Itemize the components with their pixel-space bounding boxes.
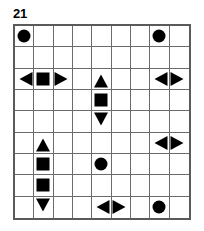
grid-cell-r4c8[interactable]	[150, 90, 169, 111]
grid-cell-r9c9[interactable]	[170, 197, 189, 218]
grid-cell-r8c5[interactable]	[92, 175, 111, 196]
grid-cell-r2c7[interactable]	[131, 47, 150, 68]
grid-cell-r8c1[interactable]	[15, 175, 34, 196]
shape-triangle-left-r6c8	[155, 136, 168, 150]
grid-cell-r3c2[interactable]	[34, 69, 53, 90]
grid-cell-r6c5[interactable]	[92, 133, 111, 154]
grid-cell-r4c5[interactable]	[92, 90, 111, 111]
grid-cell-r9c6[interactable]	[112, 197, 131, 218]
grid-cell-r6c7[interactable]	[131, 133, 150, 154]
grid-cell-r8c8[interactable]	[150, 175, 169, 196]
grid-cell-r6c8[interactable]	[150, 133, 169, 154]
shape-square-r3c2	[37, 72, 50, 85]
grid-cell-r2c3[interactable]	[54, 47, 73, 68]
grid-cell-r7c7[interactable]	[131, 154, 150, 175]
grid-cell-r9c1[interactable]	[15, 197, 34, 218]
grid-cell-r7c3[interactable]	[54, 154, 73, 175]
grid-cell-r2c8[interactable]	[150, 47, 169, 68]
grid-cell-r5c6[interactable]	[112, 111, 131, 132]
grid-cell-r2c6[interactable]	[112, 47, 131, 68]
grid-cell-r1c7[interactable]	[131, 26, 150, 47]
grid-cell-r3c6[interactable]	[112, 69, 131, 90]
grid-cell-r3c4[interactable]	[73, 69, 92, 90]
grid-cell-r1c6[interactable]	[112, 26, 131, 47]
grid-cell-r1c1[interactable]	[15, 26, 34, 47]
grid-cell-r7c4[interactable]	[73, 154, 92, 175]
grid-cell-r9c2[interactable]	[34, 197, 53, 218]
shape-circle-r7c5	[95, 158, 108, 171]
grid-cell-r7c5[interactable]	[92, 154, 111, 175]
grid-cell-r1c2[interactable]	[34, 26, 53, 47]
grid-cell-r6c6[interactable]	[112, 133, 131, 154]
shape-triangle-right-r9c6	[112, 200, 125, 214]
grid-cell-r6c2[interactable]	[34, 133, 53, 154]
grid-cell-r6c3[interactable]	[54, 133, 73, 154]
grid-cell-r4c2[interactable]	[34, 90, 53, 111]
grid-cell-r6c9[interactable]	[170, 133, 189, 154]
grid-cell-r1c5[interactable]	[92, 26, 111, 47]
grid-cell-r9c3[interactable]	[54, 197, 73, 218]
grid-cell-r9c8[interactable]	[150, 197, 169, 218]
grid-cell-r3c8[interactable]	[150, 69, 169, 90]
grid-cell-r6c1[interactable]	[15, 133, 34, 154]
shape-triangle-down-r9c2	[36, 199, 50, 212]
grid-cell-r5c7[interactable]	[131, 111, 150, 132]
grid-cell-r8c4[interactable]	[73, 175, 92, 196]
grid-cell-r4c1[interactable]	[15, 90, 34, 111]
shape-circle-r9c8	[153, 201, 166, 214]
shape-square-r7c2	[37, 158, 50, 171]
grid-cell-r7c8[interactable]	[150, 154, 169, 175]
grid-cell-r4c4[interactable]	[73, 90, 92, 111]
grid-cell-r2c1[interactable]	[15, 47, 34, 68]
shape-triangle-up-r3c5	[94, 74, 108, 87]
shape-circle-r1c1	[18, 30, 31, 43]
grid-cell-r4c7[interactable]	[131, 90, 150, 111]
grid-cell-r3c7[interactable]	[131, 69, 150, 90]
grid-cell-r5c8[interactable]	[150, 111, 169, 132]
grid-cell-r5c5[interactable]	[92, 111, 111, 132]
grid-cell-r2c4[interactable]	[73, 47, 92, 68]
grid-cell-r2c2[interactable]	[34, 47, 53, 68]
grid-cell-r3c5[interactable]	[92, 69, 111, 90]
grid-cell-r5c1[interactable]	[15, 111, 34, 132]
puzzle-grid	[15, 26, 189, 218]
grid-cell-r4c6[interactable]	[112, 90, 131, 111]
grid-cell-r5c9[interactable]	[170, 111, 189, 132]
grid-cell-r4c9[interactable]	[170, 90, 189, 111]
grid-cell-r5c3[interactable]	[54, 111, 73, 132]
grid-cell-r2c5[interactable]	[92, 47, 111, 68]
shape-square-r8c2	[37, 179, 50, 192]
grid-cell-r9c4[interactable]	[73, 197, 92, 218]
grid-cell-r8c7[interactable]	[131, 175, 150, 196]
shape-triangle-left-r3c8	[155, 72, 168, 86]
shape-triangle-left-r9c5	[97, 200, 110, 214]
grid-cell-r1c4[interactable]	[73, 26, 92, 47]
puzzle-grid-frame	[13, 24, 191, 220]
grid-cell-r5c4[interactable]	[73, 111, 92, 132]
shape-triangle-down-r5c5	[94, 113, 108, 126]
page-title: 21	[13, 7, 27, 21]
grid-cell-r8c6[interactable]	[112, 175, 131, 196]
grid-cell-r1c9[interactable]	[170, 26, 189, 47]
grid-cell-r1c8[interactable]	[150, 26, 169, 47]
grid-cell-r6c4[interactable]	[73, 133, 92, 154]
grid-cell-r9c7[interactable]	[131, 197, 150, 218]
grid-cell-r4c3[interactable]	[54, 90, 73, 111]
grid-cell-r3c3[interactable]	[54, 69, 73, 90]
shape-triangle-right-r3c3	[54, 72, 67, 86]
grid-cell-r7c1[interactable]	[15, 154, 34, 175]
grid-cell-r8c3[interactable]	[54, 175, 73, 196]
grid-cell-r9c5[interactable]	[92, 197, 111, 218]
grid-cell-r8c9[interactable]	[170, 175, 189, 196]
grid-cell-r1c3[interactable]	[54, 26, 73, 47]
grid-cell-r7c2[interactable]	[34, 154, 53, 175]
grid-cell-r3c9[interactable]	[170, 69, 189, 90]
grid-cell-r7c9[interactable]	[170, 154, 189, 175]
puzzle-container: 21	[0, 0, 204, 231]
grid-cell-r5c2[interactable]	[34, 111, 53, 132]
grid-cell-r3c1[interactable]	[15, 69, 34, 90]
grid-cell-r8c2[interactable]	[34, 175, 53, 196]
grid-cell-r7c6[interactable]	[112, 154, 131, 175]
shape-triangle-up-r6c2	[36, 138, 50, 151]
grid-cell-r2c9[interactable]	[170, 47, 189, 68]
